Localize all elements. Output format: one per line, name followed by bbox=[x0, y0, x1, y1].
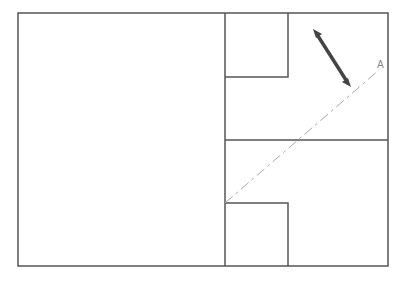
dashed-axis-line bbox=[225, 70, 379, 203]
diagram-canvas: A bbox=[0, 0, 408, 282]
upper-notch-box bbox=[225, 13, 288, 77]
lower-notch-box bbox=[225, 203, 288, 266]
point-label-a: A bbox=[377, 59, 384, 70]
double-arrow-icon bbox=[313, 29, 351, 87]
